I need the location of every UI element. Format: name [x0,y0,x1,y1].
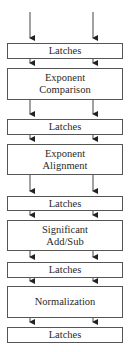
latches-box-3: Latches [7,196,123,211]
stage-label-line2: Comparison [39,84,90,96]
normalization-box: Normalization [7,286,123,318]
latches-box-1: Latches [7,43,123,59]
stage-label-line1: Exponent [45,148,85,160]
significant-add-sub-box: Significant Add/Sub [7,220,123,251]
stage-label: Normalization [35,296,96,308]
latches-label: Latches [49,45,82,57]
stage-label-line1: Exponent [45,72,85,84]
latches-box-5: Latches [7,327,123,343]
stage-label-line2: Add/Sub [46,236,83,248]
exponent-comparison-box: Exponent Comparison [7,68,123,100]
latches-label: Latches [49,264,82,276]
latches-label: Latches [49,198,82,210]
latches-label: Latches [49,329,82,341]
stage-label-line2: Alignment [43,160,88,172]
latches-label: Latches [49,121,82,133]
latches-box-2: Latches [7,119,123,135]
latches-box-4: Latches [7,262,123,278]
stage-label-line1: Significant [42,224,88,236]
exponent-alignment-box: Exponent Alignment [7,144,123,175]
